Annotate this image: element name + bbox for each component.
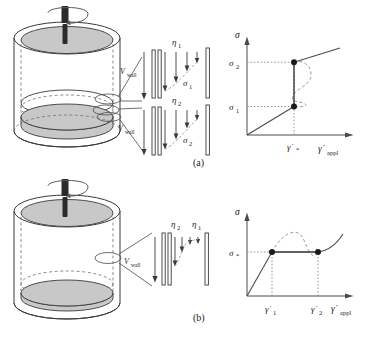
chart-flow-curve-a: σ σ 2 σ 1 γ̇ * γ̇ appl bbox=[229, 30, 354, 156]
x-axis-label-sub-a: appl bbox=[327, 149, 338, 156]
v-wall-sub-b: wall bbox=[131, 262, 141, 268]
stable-high-branch-b bbox=[318, 234, 343, 252]
eta-label-upper-a: η bbox=[172, 37, 177, 47]
outer-wall-lower-a bbox=[206, 105, 209, 155]
unstable-s-curve-a bbox=[292, 61, 311, 106]
xtick-gamma2-sub-b: 2 bbox=[319, 309, 322, 316]
eta2-sub-b: 2 bbox=[177, 224, 180, 231]
ytick-sigma2-sub-a: 2 bbox=[236, 63, 239, 70]
ytick-sigma2-a: σ bbox=[229, 58, 234, 68]
sigma-sub-lower-a: 2 bbox=[189, 140, 192, 147]
v-wall-label-upper-a: V bbox=[120, 67, 126, 76]
eta2-label-b: η bbox=[171, 219, 176, 229]
outer-wall-b bbox=[205, 233, 208, 285]
bottom-fluid-b bbox=[21, 280, 113, 306]
v-wall-label-b: V bbox=[124, 257, 130, 266]
ytick-sigma-star-b: σ bbox=[229, 248, 234, 258]
inner-wall-upper-a bbox=[152, 50, 155, 98]
panel-label-b: (b) bbox=[193, 312, 205, 324]
plateau-start-point-b bbox=[269, 249, 275, 255]
inset-upper-a: V wall η 1 σ 1 bbox=[120, 37, 209, 100]
xtick-gammastar-sub-a: * bbox=[296, 146, 299, 153]
eta1-label-b: η bbox=[192, 219, 197, 229]
panel-label-a: (a) bbox=[193, 157, 204, 169]
x-axis-label-sub-b: appl bbox=[340, 309, 351, 316]
xtick-gamma1-b: γ̇ bbox=[265, 304, 272, 314]
v-wall-label-lower-a: V bbox=[118, 124, 124, 133]
plateau-end-point-b bbox=[315, 249, 321, 255]
eta-label-lower-a: η bbox=[172, 95, 177, 105]
ytick-sigma1-sub-a: 1 bbox=[236, 107, 239, 114]
stable-high-branch-a bbox=[294, 48, 340, 62]
sigma-label-lower-a: σ bbox=[183, 135, 188, 145]
outer-wall-upper-a bbox=[206, 48, 209, 98]
chart-flow-curve-b: σ σ * γ̇ 1 γ̇ 2 γ̇ appl bbox=[229, 207, 354, 316]
sigma-sub-upper-a: 1 bbox=[189, 83, 192, 90]
ytick-sigma1-a: σ bbox=[229, 102, 234, 112]
upper-band-point-a bbox=[291, 59, 297, 65]
v-wall-sub-upper-a: wall bbox=[127, 72, 137, 78]
v-wall-sub-lower-a: wall bbox=[125, 129, 135, 135]
xtick-gamma2-b: γ̇ bbox=[311, 304, 318, 314]
y-axis-label-a: σ bbox=[235, 30, 240, 40]
y-axis-label-b: σ bbox=[235, 207, 240, 217]
eta-sub-lower-a: 2 bbox=[178, 100, 181, 107]
inner-wall-lower-a bbox=[152, 107, 155, 155]
lower-band-point-a bbox=[291, 104, 297, 110]
panel-a-canvas: V wall η 1 σ 1 bbox=[0, 0, 365, 172]
panel-a: V wall η 1 σ 1 bbox=[0, 0, 365, 172]
panel-b: V wall η 2 η 1 (b) bbox=[0, 171, 365, 343]
x-axis-label-a: γ̇ bbox=[318, 144, 325, 154]
panel-b-canvas: V wall η 2 η 1 (b) bbox=[0, 171, 365, 343]
inner-wall-b bbox=[162, 233, 165, 285]
xtick-gamma1-sub-b: 1 bbox=[273, 309, 276, 316]
inset-lower-a: V wall η 2 σ 2 bbox=[118, 95, 209, 156]
ytick-sigma-star-sub-b: * bbox=[236, 252, 239, 259]
eta1-sub-b: 1 bbox=[198, 224, 201, 231]
newtonian-low-branch-b bbox=[247, 252, 272, 296]
eta-sub-upper-a: 1 bbox=[178, 42, 181, 49]
figure-shear-banding: V wall η 1 σ 1 bbox=[0, 0, 365, 343]
xtick-gammastar-a: γ̇ bbox=[287, 142, 294, 152]
sigma-label-upper-a: σ bbox=[183, 78, 188, 88]
stable-low-branch-a bbox=[247, 107, 294, 136]
x-axis-label-b: γ̇ bbox=[331, 304, 338, 314]
